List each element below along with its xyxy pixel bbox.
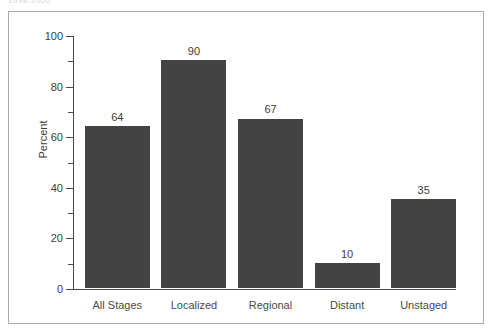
bar — [391, 199, 456, 288]
y-tick-minor — [68, 163, 74, 164]
x-category-label: Regional — [228, 300, 313, 311]
chart-frame: 020406080100 Percent 6490671035 All Stag… — [8, 11, 484, 324]
y-tick-major — [66, 137, 74, 138]
bar-value-label: 35 — [391, 185, 456, 196]
y-tick-minor — [68, 213, 74, 214]
x-category-label: Localized — [152, 300, 237, 311]
bar — [238, 119, 303, 289]
y-tick-label: 0 — [33, 284, 63, 295]
y-tick-label: 40 — [33, 183, 63, 194]
y-tick-major — [66, 238, 74, 239]
x-category-label: Distant — [305, 300, 390, 311]
bar-value-label: 64 — [85, 112, 150, 123]
x-category-label: All Stages — [75, 300, 160, 311]
y-tick-minor — [68, 112, 74, 113]
bar-value-label: 90 — [161, 46, 226, 57]
plot-area: 020406080100 Percent 6490671035 All Stag… — [73, 36, 456, 289]
bar — [315, 263, 380, 288]
y-tick-major — [66, 87, 74, 88]
y-tick-label: 20 — [33, 233, 63, 244]
y-tick-major — [66, 36, 74, 37]
y-tick-major — [66, 188, 74, 189]
bar-value-label: 67 — [238, 104, 303, 115]
y-tick-minor — [68, 61, 74, 62]
y-tick-label: 100 — [33, 31, 63, 42]
bar — [161, 60, 226, 288]
bar-value-label: 10 — [315, 249, 380, 260]
y-tick-minor — [68, 264, 74, 265]
y-tick-major — [66, 289, 74, 290]
clipped-header-text: 1998-2000 — [8, 0, 128, 5]
y-tick-label: 80 — [33, 82, 63, 93]
y-axis-title: Percent — [38, 110, 49, 170]
x-axis-line — [73, 289, 456, 290]
x-category-label: Unstaged — [381, 300, 466, 311]
bar — [85, 126, 150, 288]
